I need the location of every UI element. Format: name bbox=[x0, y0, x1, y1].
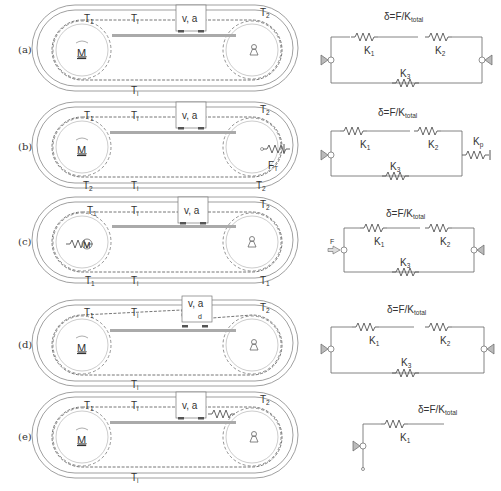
svg-text:(d): (d) bbox=[18, 339, 32, 350]
svg-text:K1: K1 bbox=[374, 236, 385, 248]
svg-text:Ti: Ti bbox=[131, 400, 139, 412]
svg-text:Ti: Ti bbox=[131, 180, 139, 192]
svg-text:d: d bbox=[198, 313, 202, 320]
svg-text:T1: T1 bbox=[84, 110, 94, 122]
panel-d: (d) v, a d T1 Ti T2 Ti M bbox=[18, 296, 298, 391]
svg-text:K3: K3 bbox=[400, 257, 411, 269]
svg-text:δ=F/Ktotal: δ=F/Ktotal bbox=[384, 11, 424, 23]
svg-text:K3: K3 bbox=[401, 357, 412, 369]
svg-text:Ti: Ti bbox=[131, 13, 139, 25]
panel-b: (b) v, a T1 Ti T2 T2 Ti T2 M FT bbox=[18, 102, 298, 192]
svg-text:v, a: v, a bbox=[188, 298, 204, 309]
svg-text:Ti: Ti bbox=[131, 110, 139, 122]
svg-text:T2: T2 bbox=[260, 394, 270, 406]
svg-text:(e): (e) bbox=[18, 431, 32, 442]
svg-text:Ti: Ti bbox=[131, 205, 139, 217]
svg-text:K3: K3 bbox=[390, 161, 401, 173]
guide-rail bbox=[112, 34, 236, 37]
svg-text:T2: T2 bbox=[83, 180, 93, 192]
svg-text:M: M bbox=[83, 240, 91, 250]
panel-c: (c) v, a T1 Ti T2 T1 Ti T1 M bbox=[18, 197, 298, 287]
svg-text:(b): (b) bbox=[18, 141, 32, 152]
svg-text:v, a: v, a bbox=[182, 110, 198, 121]
svg-text:K1: K1 bbox=[360, 139, 371, 151]
svg-text:T1: T1 bbox=[260, 275, 270, 287]
svg-text:T2: T2 bbox=[260, 199, 270, 211]
svg-text:K1: K1 bbox=[400, 432, 411, 444]
carriage-label: v, a bbox=[182, 13, 198, 24]
svg-text:δ=F/Ktotal: δ=F/Ktotal bbox=[387, 304, 427, 316]
svg-text:δ=F/Ktotal: δ=F/Ktotal bbox=[386, 208, 426, 220]
panel-label: (a) bbox=[18, 44, 32, 55]
svg-text:T1: T1 bbox=[84, 307, 94, 319]
panel-e: (e) v, a T1 Ti T2 Ti M bbox=[18, 392, 298, 484]
svg-text:v, a: v, a bbox=[182, 400, 198, 411]
svg-text:K2: K2 bbox=[435, 45, 446, 57]
network-d: δ=F/Ktotal K1 K2 K3 bbox=[321, 304, 494, 377]
svg-text:T2: T2 bbox=[260, 7, 270, 19]
svg-text:T1: T1 bbox=[87, 205, 97, 217]
svg-text:K3: K3 bbox=[400, 68, 411, 80]
network-c: δ=F/Ktotal K1 K2 K3 F bbox=[328, 208, 484, 276]
svg-text:K1: K1 bbox=[369, 335, 380, 347]
svg-text:Kp: Kp bbox=[473, 136, 484, 149]
svg-text:T2: T2 bbox=[260, 302, 270, 314]
svg-text:T1: T1 bbox=[85, 275, 95, 287]
svg-text:T2: T2 bbox=[260, 104, 270, 116]
network-e: δ=F/Ktotal K1 bbox=[353, 404, 458, 471]
svg-text:F: F bbox=[330, 238, 334, 245]
network-b: δ=F/Ktotal K1 K2 K3 Kp bbox=[321, 107, 490, 180]
svg-text:K2: K2 bbox=[440, 335, 451, 347]
svg-text:Ti: Ti bbox=[131, 472, 139, 484]
svg-text:δ=F/Ktotal: δ=F/Ktotal bbox=[418, 404, 458, 416]
svg-text:T1: T1 bbox=[84, 13, 94, 25]
svg-text:T1: T1 bbox=[84, 400, 94, 412]
panel-a: (a) v, a T1 Ti T2 Ti M bbox=[18, 5, 298, 97]
svg-text:Ti: Ti bbox=[131, 275, 139, 287]
svg-text:(c): (c) bbox=[18, 236, 32, 247]
network-a: δ=F/Ktotal K1 K2 K3 bbox=[321, 11, 492, 87]
svg-text:K1: K1 bbox=[364, 45, 375, 57]
svg-text:Ti: Ti bbox=[131, 307, 139, 319]
svg-text:v, a: v, a bbox=[184, 205, 200, 216]
svg-text:Ti: Ti bbox=[131, 85, 139, 97]
svg-text:δ=F/Ktotal: δ=F/Ktotal bbox=[378, 107, 418, 119]
svg-text:K2: K2 bbox=[428, 139, 439, 151]
belt-drive-figure: (a) v, a T1 Ti T2 Ti M δ=F/Ktotal K1 K2 … bbox=[0, 0, 501, 491]
svg-text:K2: K2 bbox=[440, 236, 451, 248]
